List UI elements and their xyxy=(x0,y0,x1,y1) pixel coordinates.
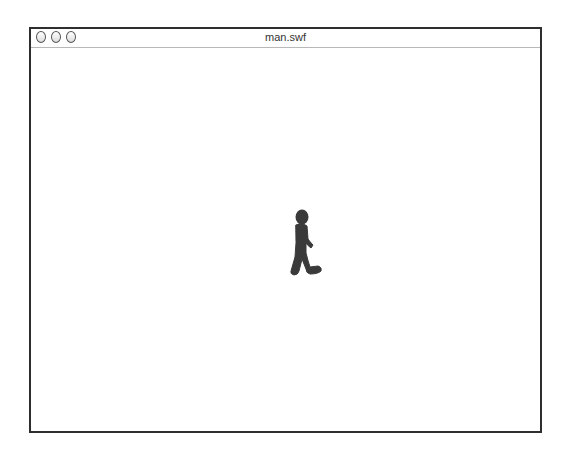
window-title: man.swf xyxy=(31,31,540,43)
walking-man-icon xyxy=(290,209,326,281)
swf-stage[interactable] xyxy=(31,48,540,431)
title-bar[interactable]: man.swf xyxy=(31,29,540,48)
flash-player-window: man.swf xyxy=(29,27,542,433)
